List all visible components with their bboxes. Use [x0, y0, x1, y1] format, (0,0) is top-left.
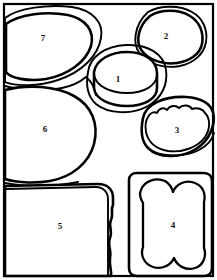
region-label-1: 1	[116, 75, 121, 84]
region-label-2: 2	[164, 32, 169, 41]
region-label-7: 7	[41, 34, 46, 43]
region-label-4: 4	[171, 221, 176, 230]
outline-drawing	[0, 0, 217, 280]
region-label-6: 6	[43, 125, 48, 134]
region-label-5: 5	[58, 222, 63, 231]
region-6-shape	[5, 87, 96, 186]
region-label-3: 3	[175, 126, 180, 135]
figure-canvas: 7 2 1 3 6 5 4	[0, 0, 217, 280]
